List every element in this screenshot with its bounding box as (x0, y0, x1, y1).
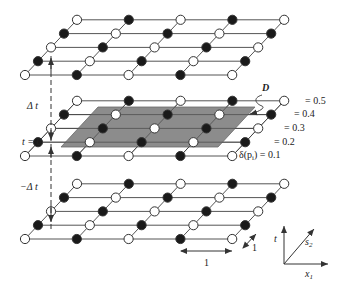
minus-delta-t-label: −Δ t (20, 181, 38, 192)
lattice-node-empty (85, 138, 94, 147)
lattice-node-empty (85, 221, 94, 230)
axis-s2-sub: 2 (309, 241, 313, 249)
lattice-node-filled (228, 96, 237, 105)
region-d-label: D (261, 82, 269, 93)
axis-x1-sub: 1 (309, 273, 313, 281)
lattice-node-filled (137, 138, 146, 147)
lattice-node-filled (72, 234, 81, 243)
lattice-node-filled (228, 179, 237, 188)
lattice-layer-top (20, 15, 288, 79)
lattice-node-empty (150, 124, 159, 133)
lattice-node-empty (111, 193, 120, 202)
lattice-node-filled (202, 207, 211, 216)
lattice-node-empty (46, 43, 55, 52)
lattice-node-filled (59, 110, 68, 119)
lattice-node-filled (163, 29, 172, 38)
lattice-node-filled (176, 234, 185, 243)
lattice-node-empty (176, 96, 185, 105)
lattice-node-empty (280, 96, 289, 105)
lattice-node-filled (202, 43, 211, 52)
lattice-node-filled (137, 57, 146, 66)
lattice-node-empty (189, 221, 198, 230)
lattice-node-empty (111, 110, 120, 119)
lattice-node-filled (137, 221, 146, 230)
lattice-node-empty (124, 234, 133, 243)
axis-s2-label: s2 (305, 236, 313, 249)
lattice-node-filled (59, 193, 68, 202)
lattice-node-empty (72, 96, 81, 105)
axis-x1-label: x1 (304, 268, 313, 281)
lattice-node-filled (163, 110, 172, 119)
lattice-node-empty (228, 234, 237, 243)
level-label-0-5: = 0.5 (305, 95, 326, 106)
delta-t-label: Δ t (26, 100, 38, 111)
level-label-0-1: δ(pi) = 0.1 (239, 149, 280, 162)
lattice-node-empty (215, 29, 224, 38)
lattice-node-empty (124, 70, 133, 79)
level-label-0-4: = 0.4 (294, 108, 315, 119)
lattice-node-filled (124, 179, 133, 188)
lattice-node-empty (124, 151, 133, 160)
lattice-layer-bottom (20, 179, 288, 243)
lattice-node-empty (189, 138, 198, 147)
lattice-node-filled (241, 138, 250, 147)
lattice-node-empty (72, 179, 81, 188)
lattice-node-empty (254, 124, 263, 133)
lattice-node-empty (150, 207, 159, 216)
axis-t-label: t (274, 233, 277, 244)
lattice-node-empty (176, 15, 185, 24)
lattice-node-empty (20, 151, 29, 160)
lattice-node-filled (202, 124, 211, 133)
lattice-node-filled (241, 57, 250, 66)
t-zero-label: t = 0 (22, 136, 42, 147)
lattice-node-filled (72, 70, 81, 79)
delta-p-prefix: δ(p (239, 149, 252, 161)
lattice-node-filled (241, 221, 250, 230)
scale-label-horizontal: 1 (204, 257, 209, 268)
lattice-node-filled (33, 57, 42, 66)
lattice-node-empty (20, 70, 29, 79)
delta-p-suffix: ) = 0.1 (254, 149, 280, 161)
lattice-node-filled (33, 221, 42, 230)
lattice-node-filled (98, 207, 107, 216)
lattice-node-filled (267, 29, 276, 38)
lattice-node-empty (280, 15, 289, 24)
lattice-node-empty (72, 15, 81, 24)
lattice-node-empty (215, 110, 224, 119)
lattice-node-filled (124, 15, 133, 24)
lattice-node-empty (280, 179, 289, 188)
lattice-node-filled (267, 110, 276, 119)
lattice-node-filled (98, 124, 107, 133)
lattice-node-filled (72, 151, 81, 160)
lattice-node-filled (176, 151, 185, 160)
lattice-node-filled (59, 29, 68, 38)
lattice-node-filled (124, 96, 133, 105)
lattice-node-empty (254, 43, 263, 52)
lattice-node-empty (176, 179, 185, 188)
lattice-node-empty (150, 43, 159, 52)
level-label-0-2: = 0.2 (274, 136, 295, 147)
lattice-node-empty (228, 151, 237, 160)
lattice-node-filled (176, 70, 185, 79)
lattice-node-filled (228, 15, 237, 24)
lattice-node-filled (98, 43, 107, 52)
lattice-node-empty (215, 193, 224, 202)
lattice-node-empty (85, 57, 94, 66)
lattice-node-empty (189, 57, 198, 66)
scale-label-depth: 1 (252, 242, 257, 253)
lattice-node-filled (163, 193, 172, 202)
lattice-node-empty (20, 234, 29, 243)
lattice-node-filled (267, 193, 276, 202)
lattice-node-empty (228, 70, 237, 79)
level-label-0-3: = 0.3 (284, 122, 305, 133)
region-d-pointer (250, 95, 263, 114)
lattice-node-empty (254, 207, 263, 216)
lattice-node-empty (111, 29, 120, 38)
lattice-diagram: Δ t t = 0 −Δ t D = 0.5 = 0.4 = 0.3 = 0.2… (0, 0, 343, 291)
